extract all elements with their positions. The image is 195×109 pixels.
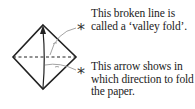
valley-fold-caption: This broken line is called a ‘valley fol…	[91, 7, 195, 32]
asterisk-marker-icon: *	[77, 66, 85, 82]
fold-arrow-caption: This arrow shows in which direction to f…	[91, 60, 195, 98]
leader-tick-lower	[55, 67, 59, 68]
asterisk-marker-icon: *	[77, 22, 85, 38]
